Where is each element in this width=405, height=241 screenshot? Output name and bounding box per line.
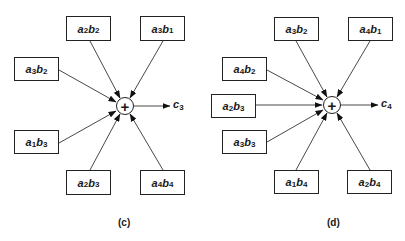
input-box-a2b4: a2b4: [347, 170, 392, 194]
output-label-c3: c3: [173, 98, 184, 110]
plus-icon: +: [328, 98, 337, 113]
input-box-a3b1: a3b1: [140, 16, 185, 41]
input-box-a1b3: a1b3: [14, 130, 59, 154]
input-box-a3b2: a3b2: [14, 57, 59, 81]
caption-d: (d): [327, 217, 340, 228]
output-label-c4: c4: [381, 97, 392, 109]
input-box-a3b3: a3b3: [222, 130, 267, 154]
input-box-a3b2: a3b2: [274, 17, 319, 41]
input-box-a4b2: a4b2: [222, 57, 267, 81]
summation-node: +: [323, 96, 341, 114]
input-box-a2b3: a2b3: [66, 170, 111, 195]
input-box-a4b4: a4b4: [140, 170, 185, 195]
connector-arrows: [0, 0, 405, 241]
plus-icon: +: [121, 99, 130, 114]
caption-c: (c): [118, 217, 130, 228]
input-box-a1b4: a1b4: [274, 170, 319, 194]
summation-node: +: [116, 97, 134, 115]
input-box-a2b3: a2b3: [211, 94, 256, 118]
input-box-a4b1: a4b1: [348, 17, 393, 41]
input-box-a2b2: a2b2: [66, 16, 111, 41]
